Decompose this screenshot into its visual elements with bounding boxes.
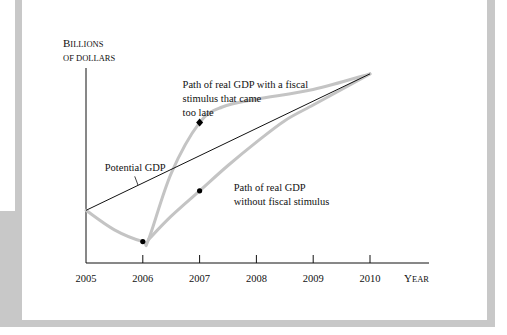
x-axis-label: YEAR [404, 272, 429, 284]
x-tick-label: 2008 [246, 273, 267, 284]
x-tick-label: 2006 [132, 273, 153, 284]
axes: 200520062007200820092010YEARBILLIONSOF D… [63, 37, 429, 284]
potential-gdp-pointer [135, 176, 138, 185]
x-tick-label: 2005 [76, 273, 97, 284]
y-axis-label: OF DOLLARS [63, 53, 115, 63]
x-tick-label: 2007 [189, 273, 210, 284]
annotation-late-stimulus: Path of real GDP with a fiscalstimulus t… [183, 79, 309, 118]
gdp-chart: 200520062007200820092010YEARBILLIONSOF D… [0, 0, 507, 335]
x-tick-label: 2010 [360, 273, 381, 284]
data-point [140, 239, 145, 244]
annotation-potential-gdp: Potential GDP [105, 162, 166, 173]
y-axis-label: BILLIONS [63, 37, 104, 49]
x-tick-label: 2009 [303, 273, 324, 284]
data-point [197, 188, 202, 193]
annotation-no-stimulus: Path of real GDPwithout fiscal stimulus [234, 182, 330, 207]
labels-layer: Path of real GDP with a fiscalstimulus t… [105, 79, 330, 207]
markers-layer [140, 119, 203, 245]
